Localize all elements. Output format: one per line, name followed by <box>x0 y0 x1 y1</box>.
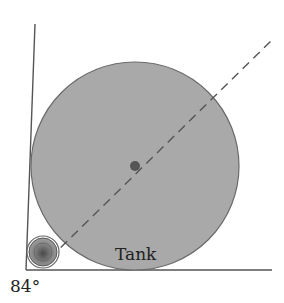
diagram-canvas: Tank 84° <box>0 0 284 303</box>
tank-label: Tank <box>115 244 157 264</box>
angle-label: 84° <box>10 276 40 296</box>
tank-center-dot <box>130 161 140 171</box>
small-cylinder <box>29 238 57 266</box>
